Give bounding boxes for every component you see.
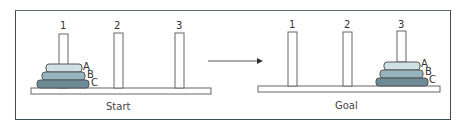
disk-a <box>46 64 82 72</box>
start-panel <box>31 33 211 94</box>
disk-b <box>380 70 423 78</box>
start-caption: Start <box>106 102 130 112</box>
peg-1 <box>288 32 297 86</box>
peg-2 <box>114 33 123 88</box>
disk-c <box>376 78 428 86</box>
peg-3 <box>175 33 184 88</box>
base-plate <box>258 86 440 92</box>
peg-3 <box>397 31 406 62</box>
peg-label-3: 3 <box>176 21 182 31</box>
base-plate <box>31 88 211 94</box>
hanoi-diagram <box>0 0 465 125</box>
disk-label-c: C <box>429 75 436 85</box>
peg-label-2: 2 <box>344 20 350 30</box>
arrow-icon <box>208 58 263 64</box>
peg-2 <box>343 32 352 86</box>
disk-label-c: C <box>91 78 98 88</box>
peg-label-1: 1 <box>289 20 295 30</box>
disk-b <box>42 72 85 80</box>
disk-c <box>37 80 89 88</box>
peg-label-3: 3 <box>398 20 404 30</box>
peg-label-2: 2 <box>114 21 120 31</box>
peg-label-1: 1 <box>60 21 66 31</box>
disk-a <box>384 62 420 70</box>
goal-caption: Goal <box>335 101 358 111</box>
goal-panel <box>258 31 440 92</box>
